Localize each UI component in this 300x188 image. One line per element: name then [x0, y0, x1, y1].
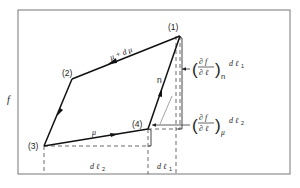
- point-2-label: (2): [62, 68, 73, 78]
- plot-frame: [18, 10, 290, 174]
- svg-text:d ℓ: d ℓ: [157, 162, 167, 171]
- svg-text:∂ f: ∂ f: [199, 113, 209, 122]
- interval-dl2: d ℓ 2: [90, 162, 105, 172]
- arrow-4-to-1: [158, 88, 162, 97]
- bracket-lower: [148, 129, 151, 146]
- svg-text:2: 2: [241, 120, 244, 126]
- point-4-label: (4): [132, 119, 143, 129]
- svg-text:): ): [215, 60, 221, 79]
- svg-text:∂ ℓ: ∂ ℓ: [199, 68, 209, 77]
- annotation-lower: ( ∂ f ∂ ℓ ) μ d ℓ 2: [192, 113, 244, 137]
- svg-text:d ℓ: d ℓ: [90, 162, 100, 171]
- svg-text:1: 1: [241, 63, 244, 69]
- svg-text:n: n: [221, 72, 225, 81]
- svg-text:∂ f: ∂ f: [199, 57, 209, 66]
- point-1-label: (1): [168, 22, 179, 32]
- hatch-mark: [160, 96, 172, 124]
- svg-text:2: 2: [102, 166, 105, 172]
- svg-text:d ℓ: d ℓ: [229, 59, 239, 68]
- y-axis-label: f: [7, 94, 11, 105]
- svg-text:): ): [215, 116, 221, 135]
- thermodynamic-cycle-diagram: f (1) (2) (3) (4) μ + d μ μ n ( ∂ f: [0, 0, 300, 188]
- svg-text:(: (: [192, 60, 198, 79]
- edge-label-n: n: [157, 75, 162, 85]
- svg-text:1: 1: [169, 166, 172, 172]
- svg-text:(: (: [192, 116, 198, 135]
- edge-label-mu: μ: [91, 128, 96, 137]
- svg-text:d ℓ: d ℓ: [229, 116, 239, 125]
- point-3-label: (3): [28, 141, 39, 151]
- svg-text:∂ ℓ: ∂ ℓ: [199, 124, 209, 133]
- interval-dl1: d ℓ 1: [157, 162, 172, 172]
- svg-text:μ: μ: [221, 128, 225, 137]
- annotation-upper: ( ∂ f ∂ ℓ ) n d ℓ 1: [192, 57, 244, 81]
